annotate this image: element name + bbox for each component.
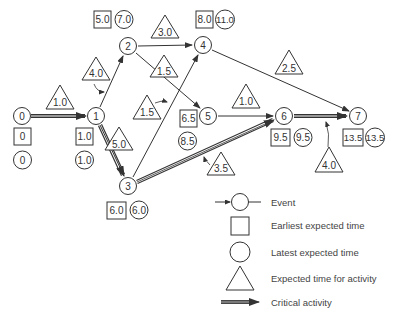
triangle-icon <box>226 266 254 290</box>
legend-earliest-label: Earliest expected time <box>271 220 364 231</box>
legend-event-label: Event <box>271 197 296 208</box>
latest-time-value: 1.0 <box>78 155 92 166</box>
latest-time-value: 7.0 <box>117 14 131 25</box>
square-icon <box>231 217 249 235</box>
latest-time-value: 11.0 <box>216 14 234 25</box>
earliest-time-value: 9.5 <box>274 132 288 143</box>
latest-time-1: 1.0 <box>76 151 94 169</box>
event-number: 4 <box>200 40 206 51</box>
activity-time-label: 1.0 <box>239 96 253 107</box>
activity-time-1-2: 4.0 <box>82 57 110 92</box>
activity-time-1-3: 5.0 <box>105 127 133 150</box>
event-number: 2 <box>125 41 131 52</box>
legend-latest-label: Latest expected time <box>271 247 359 258</box>
earliest-time-3: 6.0 <box>107 202 126 219</box>
earliest-time-value: 5.0 <box>96 14 110 25</box>
activity-time-2-4: 3.0 <box>151 15 179 38</box>
event-node-6: 6 <box>276 108 293 125</box>
latest-time-5: 8.5 <box>179 132 197 150</box>
event-node-5: 5 <box>200 108 217 125</box>
activity-time-label: 2.5 <box>282 63 296 74</box>
earliest-time-0: 0 <box>14 128 31 145</box>
latest-time-6: 9.5 <box>294 129 312 147</box>
activity-time-label: 1.0 <box>53 97 67 108</box>
event-node-3: 3 <box>120 178 137 195</box>
legend-latest: Latest expected time <box>230 242 359 262</box>
latest-time-3: 6.0 <box>130 201 148 219</box>
earliest-time-value: 13.5 <box>344 132 363 143</box>
latest-time-value: 8.5 <box>181 136 195 147</box>
activity-time-6-7: 4.0 <box>315 122 343 172</box>
event-node-7: 7 <box>350 108 367 125</box>
earliest-time-2: 5.0 <box>94 11 111 28</box>
activity-time-4-7: 2.5 <box>275 50 303 74</box>
event-node-1: 1 <box>88 108 105 125</box>
legend-activity-time: Expected time for activity <box>226 266 377 290</box>
earliest-time-4: 8.0 <box>196 11 213 28</box>
earliest-time-6: 9.5 <box>271 129 290 146</box>
event-number: 7 <box>355 111 361 122</box>
circle-icon <box>230 242 250 262</box>
earliest-time-value: 6.0 <box>110 205 124 216</box>
activity-4-7 <box>212 50 349 111</box>
activity-time-label: 4.0 <box>322 160 336 171</box>
activity-time-label: 4.0 <box>89 68 103 79</box>
event-node-0: 0 <box>14 108 31 125</box>
latest-time-0: 0 <box>14 151 32 169</box>
activity-time-label: 3.0 <box>158 27 172 38</box>
latest-time-value: 9.5 <box>296 132 310 143</box>
event-number: 0 <box>19 111 25 122</box>
activity-time-3-4: 1.5 <box>133 95 167 119</box>
legend-earliest: Earliest expected time <box>231 217 364 235</box>
legend-activity-time-label: Expected time for activity <box>271 273 377 284</box>
activity-time-3-6: 3.5 <box>204 152 235 175</box>
earliest-time-value: 6.5 <box>182 113 196 124</box>
event-number: 6 <box>281 111 287 122</box>
legend-event: Event <box>215 194 296 211</box>
event-number: 5 <box>205 111 211 122</box>
activity-6-7 <box>294 115 347 118</box>
earliest-time-value: 8.0 <box>198 14 212 25</box>
activity-0-1 <box>31 115 86 118</box>
earliest-time-7: 13.5 <box>343 129 363 146</box>
activity-time-label: 1.5 <box>157 66 171 77</box>
activity-time-0-1: 1.0 <box>46 85 74 109</box>
activity-time-2-5: 1.5 <box>150 55 178 77</box>
latest-time-value: 6.0 <box>132 205 146 216</box>
activity-time-label: 3.5 <box>214 163 228 174</box>
earliest-time-value: 1.0 <box>78 131 92 142</box>
activity-3-6 <box>136 119 274 184</box>
event-icon <box>232 194 249 211</box>
earliest-time-value: 0 <box>20 131 26 142</box>
earliest-time-1: 1.0 <box>76 128 93 145</box>
legend: Event Earliest expected time Latest expe… <box>215 194 377 308</box>
activity-1-2 <box>100 56 123 107</box>
legend-critical-label: Critical activity <box>271 297 332 308</box>
event-number: 3 <box>125 181 131 192</box>
earliest-time-5: 6.5 <box>180 110 197 127</box>
event-number: 1 <box>93 111 99 122</box>
legend-critical: Critical activity <box>221 297 332 308</box>
event-node-4: 4 <box>195 37 212 54</box>
latest-time-7: 13.5 <box>366 128 385 147</box>
activity-time-5-6: 1.0 <box>232 84 260 108</box>
latest-time-2: 7.0 <box>115 11 133 29</box>
activity-2-4 <box>138 45 192 46</box>
activity-time-label: 5.0 <box>112 139 126 150</box>
event-node-2: 2 <box>120 38 137 55</box>
latest-time-value: 0 <box>20 155 26 166</box>
latest-time-value: 13.5 <box>366 132 385 143</box>
pert-network-diagram: 1.0 4.0 5.0 3.0 1.5 1.5 3.5 1.0 2.5 <box>0 0 398 321</box>
latest-time-4: 11.0 <box>216 10 235 29</box>
activity-time-label: 1.5 <box>140 107 154 118</box>
